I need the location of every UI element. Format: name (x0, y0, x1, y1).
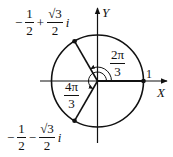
angle-label-4pi-3: 4π 3 (64, 79, 79, 112)
angle-denominator: 3 (64, 96, 79, 112)
imag-numerator: √3 (39, 121, 55, 138)
real-denominator: 2 (25, 23, 34, 39)
real-denominator: 2 (17, 138, 26, 154)
radius-120 (75, 41, 98, 81)
sign: − (7, 130, 14, 146)
x-axis-label: X (157, 86, 165, 99)
angle-numerator: 2π (110, 47, 125, 64)
angle-numerator: 4π (64, 79, 79, 96)
label-lower-root: − 1 2 − √3 2 i (4, 121, 61, 154)
real-numerator: 1 (25, 6, 34, 23)
imaginary-unit: i (58, 130, 62, 146)
unit-label: 1 (146, 68, 152, 80)
imag-denominator: 2 (47, 23, 63, 39)
sign: + (37, 15, 44, 31)
label-upper-root: − 1 2 + √3 2 i (12, 6, 69, 39)
sign: − (29, 130, 36, 146)
imag-denominator: 2 (39, 138, 55, 154)
imag-numerator: √3 (47, 6, 63, 23)
point-upper-root (72, 39, 77, 44)
imaginary-unit: i (66, 15, 70, 31)
y-axis-label: Y (102, 6, 109, 19)
sign: − (15, 15, 22, 31)
angle-label-2pi-3: 2π 3 (110, 47, 125, 80)
angle-denominator: 3 (110, 64, 125, 80)
point-lower-root (72, 119, 77, 124)
real-numerator: 1 (17, 121, 26, 138)
